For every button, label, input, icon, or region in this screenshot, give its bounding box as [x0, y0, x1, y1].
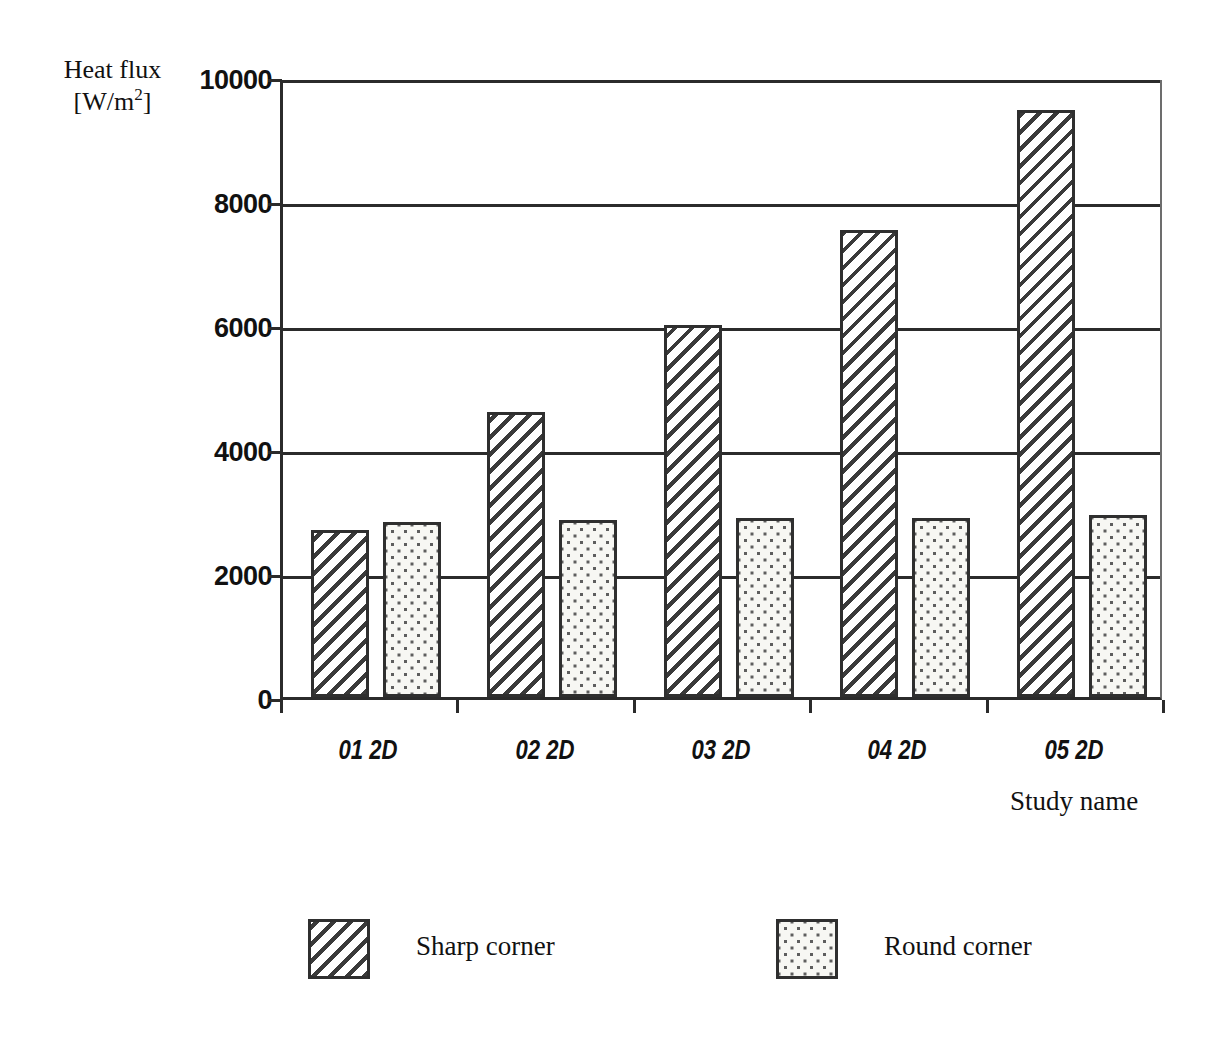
y-axis-tick-label: 8000 — [0, 189, 272, 220]
x-axis-category-label: 05 2D — [1004, 735, 1143, 766]
x-axis-tick-mark — [280, 700, 283, 713]
bar-03-2d-sharp-corner — [664, 325, 722, 697]
bar-04-2d-sharp-corner — [840, 230, 898, 697]
y-axis-tick-label: 4000 — [0, 437, 272, 468]
x-axis-category-label: 02 2D — [475, 735, 614, 766]
legend-swatch-sharp-corner — [308, 919, 370, 979]
gridline — [283, 80, 1160, 83]
x-axis-title: Study name — [1010, 786, 1138, 817]
y-axis-tick-label: 2000 — [0, 561, 272, 592]
legend-label-sharp-corner: Sharp corner — [416, 931, 555, 962]
y-axis-tick-label: 6000 — [0, 313, 272, 344]
bar-05-2d-sharp-corner — [1017, 110, 1075, 697]
x-axis-tick-mark — [633, 700, 636, 713]
legend-label-round-corner: Round corner — [884, 931, 1032, 962]
plot-area — [280, 80, 1162, 700]
chart-figure: Heat flux [W/m2] 0200040006000800010000 … — [0, 0, 1228, 1037]
bar-05-2d-round-corner — [1089, 515, 1147, 697]
x-axis-tick-mark — [809, 700, 812, 713]
x-axis-tick-mark — [986, 700, 989, 713]
bar-02-2d-round-corner — [559, 520, 617, 697]
x-axis-tick-mark — [1162, 700, 1165, 713]
bar-01-2d-sharp-corner — [311, 530, 369, 697]
bar-03-2d-round-corner — [736, 518, 794, 697]
chart-legend: Sharp corner Round corner — [0, 905, 1228, 995]
x-axis-category-label: 03 2D — [651, 735, 790, 766]
x-axis-category-label: 04 2D — [828, 735, 967, 766]
y-axis-tick-label: 0 — [0, 685, 272, 716]
legend-swatch-round-corner — [776, 919, 838, 979]
y-axis-tick-label: 10000 — [0, 65, 272, 96]
x-axis-category-label: 01 2D — [298, 735, 437, 766]
bar-02-2d-sharp-corner — [487, 412, 545, 697]
bar-04-2d-round-corner — [912, 518, 970, 697]
bar-01-2d-round-corner — [383, 522, 441, 697]
x-axis-tick-mark — [456, 700, 459, 713]
